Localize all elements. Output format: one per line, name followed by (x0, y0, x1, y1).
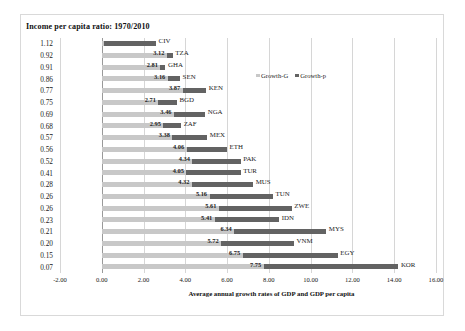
country-code-label: PAK (241, 155, 257, 162)
bar-row: 6.34MYS (60, 226, 436, 238)
bar-row: 6.75EGY (60, 250, 436, 262)
income-ratio-value: 0.92 (40, 51, 53, 60)
growth-g-value-label: 5.41 (201, 214, 215, 221)
bar-growth-g (102, 253, 243, 258)
bar-growth-p (219, 206, 292, 211)
bar-growth-p (174, 112, 205, 117)
y-axis-label-row: 0.23 (0, 214, 58, 226)
bar-row: 2.71BGD (60, 97, 436, 109)
bar-row: 3.38MEX (60, 132, 436, 144)
bar-growth-g (102, 194, 210, 199)
growth-g-value-label: 3.38 (159, 131, 173, 138)
y-axis-label-row: 0.41 (0, 167, 58, 179)
bar-row: 3.87KEN (60, 85, 436, 97)
y-axis-label-row: 1.12 (0, 38, 58, 50)
bar-growth-p (158, 100, 177, 105)
growth-g-value-label: 3.12 (153, 49, 167, 56)
bar-growth-p (168, 76, 180, 81)
country-code-label: TZA (173, 49, 189, 56)
growth-g-value-label: 3.16 (154, 73, 168, 80)
bar-growth-g (102, 264, 264, 269)
bar-row: CIV (60, 38, 436, 50)
legend-item-growth-g: Growth-G (256, 72, 288, 79)
x-tick-label: 10.00 (303, 276, 318, 283)
income-ratio-value: 0.68 (40, 122, 53, 131)
income-ratio-value: 0.91 (40, 63, 53, 72)
y-axis-label-row: 0.69 (0, 109, 58, 121)
bar-growth-p (163, 123, 181, 128)
income-ratio-value: 0.07 (40, 263, 53, 272)
y-axis-label-row: 0.07 (0, 261, 58, 273)
x-tick-label: 6.00 (221, 276, 233, 283)
income-ratio-value: 0.69 (40, 110, 53, 119)
bar-row: 2.95ZAF (60, 120, 436, 132)
y-axis-ratio-labels: 1.120.920.910.860.770.750.690.680.570.56… (0, 38, 58, 273)
country-code-label: VNM (294, 237, 313, 244)
growth-g-value-label: 3.46 (160, 108, 174, 115)
x-axis-title: Average annual growth rates of GDP and G… (0, 290, 465, 297)
chart-figure: Income per capita ratio: 1970/2010 1.120… (0, 0, 465, 331)
growth-g-value-label: 2.95 (150, 120, 164, 127)
country-code-label: MYS (326, 225, 343, 232)
income-ratio-value: 0.28 (40, 180, 53, 189)
x-tick-label: 4.00 (180, 276, 192, 283)
income-ratio-value: 0.15 (40, 251, 53, 260)
bar-row: 5.61ZWE (60, 203, 436, 215)
income-ratio-value: 0.20 (40, 239, 53, 248)
bar-row: 3.16SEN (60, 73, 436, 85)
country-code-label: KOR (398, 261, 415, 268)
bar-growth-p (192, 159, 240, 164)
country-code-label: ZWE (292, 202, 309, 209)
y-axis-label-row: 0.77 (0, 85, 58, 97)
y-axis-label-row: 0.21 (0, 226, 58, 238)
income-ratio-value: 0.75 (40, 98, 53, 107)
x-tick-label: 8.00 (263, 276, 275, 283)
y-axis-label-row: 0.56 (0, 144, 58, 156)
y-axis-label-row: 0.26 (0, 191, 58, 203)
x-tick-label: 16.00 (429, 276, 444, 283)
bar-row: 5.72VNM (60, 238, 436, 250)
bar-growth-p (187, 147, 228, 152)
growth-g-value-label: 5.16 (196, 190, 210, 197)
bar-growth-g (102, 217, 215, 222)
country-code-label: BGD (177, 96, 194, 103)
bar-growth-p (243, 253, 338, 258)
bar-row: 3.46NGA (60, 109, 436, 121)
country-code-label: ZAF (181, 120, 197, 127)
bar-row: 4.05TUR (60, 167, 436, 179)
country-code-label: TUR (241, 167, 257, 174)
plot-area: CIV3.12TZA2.81GHA3.16SEN3.87KEN2.71BGD3.… (60, 38, 436, 273)
chart-legend: Growth-G Growth-p (256, 72, 326, 79)
x-tick-label: -2.00 (53, 276, 67, 283)
income-ratio-value: 0.23 (40, 216, 53, 225)
income-ratio-value: 0.52 (40, 157, 53, 166)
bar-row: 3.12TZA (60, 50, 436, 62)
legend-swatch-growth-g (256, 74, 260, 78)
bar-growth-p (192, 182, 253, 187)
country-code-label: MUS (253, 178, 270, 185)
x-tick-label: 14.00 (387, 276, 402, 283)
country-code-label: KEN (206, 84, 223, 91)
income-ratio-value: 0.21 (40, 227, 53, 236)
growth-g-value-label: 4.34 (179, 155, 193, 162)
x-axis-title-text: Average annual growth rates of GDP and G… (111, 290, 355, 297)
bar-growth-p (172, 135, 207, 140)
bar-row: 2.81GHA (60, 62, 436, 74)
y-axis-label-row: 0.92 (0, 50, 58, 62)
x-tick-label: 12.00 (345, 276, 360, 283)
income-ratio-value: 0.26 (40, 204, 53, 213)
country-code-label: GHA (165, 61, 182, 68)
y-axis-label-row: 0.75 (0, 97, 58, 109)
growth-g-value-label: 5.72 (208, 237, 222, 244)
growth-g-value-label: 6.75 (229, 249, 243, 256)
bar-row: 5.16TUN (60, 191, 436, 203)
legend-label-growth-p: Growth-p (300, 72, 326, 79)
growth-g-value-label: 4.32 (178, 178, 192, 185)
gridline-16 (436, 38, 437, 273)
bar-growth-p (215, 217, 280, 222)
legend-label-growth-g: Growth-G (261, 72, 288, 79)
country-code-label: NGA (205, 108, 222, 115)
income-ratio-value: 0.77 (40, 86, 53, 95)
legend-swatch-growth-p (295, 74, 299, 78)
x-axis-ticks: -2.000.002.004.006.008.0010.0012.0014.00… (60, 276, 436, 288)
